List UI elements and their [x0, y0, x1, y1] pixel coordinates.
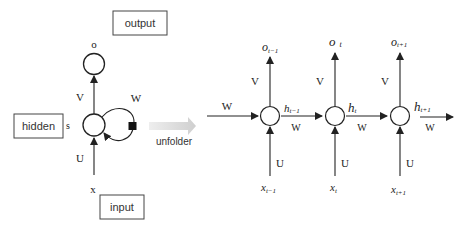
delay-square-icon	[129, 122, 137, 130]
step-t-plus-1: V ot+1 U xt+1 ht+1 W	[381, 35, 453, 197]
o-label: ot−1	[262, 40, 278, 55]
u-label: U	[276, 157, 284, 169]
v-label: V	[251, 75, 259, 87]
rnn-diagram: output hidden input o V s W U x unf	[0, 0, 467, 234]
folded-rnn: output hidden input o V s W U x	[14, 11, 167, 219]
step-t: V ot U xt ht W	[316, 34, 387, 195]
u-label: U	[76, 152, 84, 164]
step-t-minus-1: V ot−1 U xt−1 ht−1 W	[251, 40, 322, 195]
unfolded-rnn: W V ot−1 U xt−1 ht−1 W V ot U xt ht W	[207, 34, 453, 197]
h-label: ht−1	[284, 102, 300, 115]
hidden-node	[391, 107, 410, 126]
output-box: output	[113, 11, 167, 35]
v-label: V	[381, 75, 389, 87]
o-label: ot	[329, 34, 343, 49]
u-label: U	[406, 157, 414, 169]
hidden-node	[326, 107, 345, 126]
h-label: ht+1	[414, 99, 431, 114]
x-label: x	[90, 183, 96, 195]
w-label: W	[131, 92, 142, 104]
v-label: V	[76, 91, 84, 103]
w-label: W	[425, 122, 435, 133]
h-label: ht	[348, 100, 358, 115]
input-box: input	[100, 195, 144, 219]
unfold-label: unfolder	[156, 136, 193, 147]
w-label: W	[291, 122, 301, 133]
hidden-box: hidden	[14, 114, 63, 138]
output-box-label: output	[125, 17, 156, 29]
output-node	[84, 54, 105, 75]
o-label: ot+1	[391, 35, 407, 49]
input-box-label: input	[110, 201, 134, 213]
u-label: U	[341, 157, 349, 169]
x-label: xt	[329, 181, 338, 195]
unfold-transition: unfolder	[149, 117, 196, 147]
x-label: xt−1	[260, 181, 276, 195]
unfold-arrow-icon	[149, 117, 196, 135]
hidden-box-label: hidden	[22, 120, 55, 132]
hidden-node	[83, 114, 105, 136]
x-label: xt+1	[390, 183, 406, 197]
o-label: o	[91, 38, 97, 50]
hidden-node	[261, 107, 280, 126]
w-label: W	[357, 122, 367, 133]
v-label: V	[316, 75, 324, 87]
s-label: s	[66, 120, 70, 131]
incoming-w-label: W	[222, 100, 233, 112]
